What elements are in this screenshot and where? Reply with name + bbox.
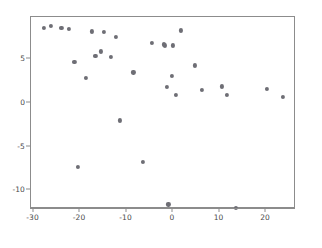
data-points-layer (31, 17, 294, 207)
x-tick-label: 20 (260, 213, 270, 222)
y-axis: 50-5-10 (0, 0, 25, 248)
y-tick-mark (26, 189, 30, 190)
data-point (90, 29, 94, 33)
y-tick-label: 5 (20, 54, 25, 63)
y-tick-label: -10 (12, 185, 25, 194)
data-point (109, 55, 113, 59)
data-point (141, 159, 145, 163)
data-point (220, 84, 224, 88)
data-point (150, 41, 154, 45)
scatter-plot-figure: 50-5-10 -30-20-1001020 (0, 0, 322, 248)
data-point (166, 202, 170, 206)
x-tick-label: -20 (73, 213, 86, 222)
data-point (59, 26, 63, 30)
x-tick-mark (265, 208, 266, 212)
plot-frame (30, 16, 295, 208)
data-point (265, 87, 269, 91)
x-tick-mark (32, 208, 33, 212)
data-point (193, 63, 197, 67)
data-point (72, 60, 76, 64)
data-point (170, 74, 174, 78)
data-point (84, 76, 88, 80)
data-point (162, 42, 166, 46)
x-tick-mark (79, 208, 80, 212)
data-point (99, 49, 103, 53)
y-tick-mark (26, 102, 30, 103)
data-point (67, 27, 71, 31)
y-tick-mark (26, 145, 30, 146)
data-point (165, 85, 169, 89)
y-tick-label: 0 (20, 98, 25, 107)
data-point (42, 26, 46, 30)
data-point (102, 30, 106, 34)
data-point (281, 95, 285, 99)
y-tick-mark (26, 58, 30, 59)
x-tick-mark (218, 208, 219, 212)
data-point (174, 93, 178, 97)
x-tick-label: 0 (170, 213, 175, 222)
y-tick-label: -5 (17, 141, 25, 150)
data-point (179, 28, 183, 32)
data-point (200, 88, 204, 92)
x-tick-label: -30 (26, 213, 39, 222)
x-tick-mark (172, 208, 173, 212)
x-tick-label: 10 (214, 213, 224, 222)
x-axis-line (30, 208, 295, 209)
data-point (163, 43, 167, 47)
data-point (117, 118, 121, 122)
x-tick-label: -10 (119, 213, 132, 222)
data-point (49, 24, 53, 28)
data-point (225, 93, 229, 97)
data-point (76, 165, 80, 169)
data-point (93, 54, 97, 58)
data-point (170, 43, 174, 47)
data-point (114, 34, 118, 38)
data-point (131, 70, 135, 74)
x-tick-mark (125, 208, 126, 212)
